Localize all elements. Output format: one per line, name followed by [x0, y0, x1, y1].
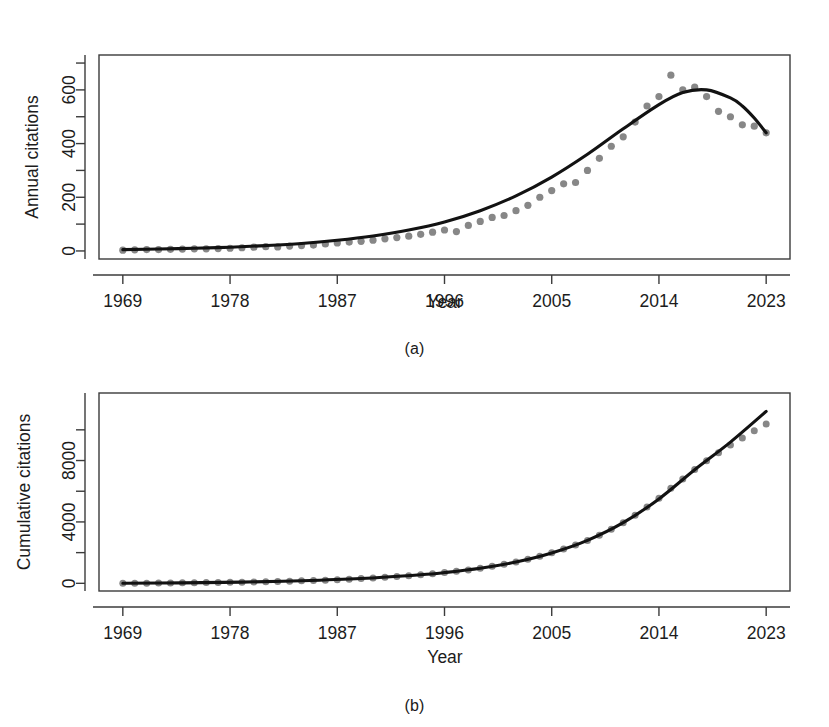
b-x-tick-label: 2005 — [532, 623, 571, 643]
b-plot-frame — [99, 393, 790, 591]
b-x-tick-label: 1978 — [211, 623, 250, 643]
panel-a-x-axis-title: Year — [427, 292, 463, 312]
b-y-tick-label: 8000 — [59, 441, 79, 480]
a-data-point — [667, 72, 674, 79]
a-data-point — [405, 233, 412, 240]
b-x-tick-label: 1969 — [103, 623, 142, 643]
a-y-tick-label: 0 — [59, 246, 79, 256]
a-data-point — [393, 234, 400, 241]
a-data-point — [584, 167, 591, 174]
a-x-tick-label: 2023 — [747, 291, 786, 311]
a-data-point — [500, 212, 507, 219]
b-y-tick-label: 4000 — [59, 502, 79, 541]
citation-figure: 19691978198719962005201420230200400600 A… — [0, 0, 829, 727]
panel-b-y-axis-title: Cumulative citations — [14, 413, 34, 570]
b-x-tick-label: 2014 — [639, 623, 678, 643]
a-x-tick-label: 1969 — [103, 291, 142, 311]
panel-b-x-axis-title: Year — [427, 647, 463, 667]
a-data-point — [560, 180, 567, 187]
b-data-point — [751, 427, 758, 434]
a-data-point — [381, 235, 388, 242]
a-y-tick-label: 200 — [59, 182, 79, 211]
a-data-point — [548, 187, 555, 194]
a-data-point — [643, 102, 650, 109]
a-data-point — [727, 113, 734, 120]
b-fitted-curve — [123, 411, 766, 583]
a-fitted-curve — [123, 90, 766, 250]
a-data-point — [465, 222, 472, 229]
a-data-point — [572, 179, 579, 186]
a-x-tick-label: 1978 — [211, 291, 250, 311]
panel-a-annual-citations: 19691978198719962005201420230200400600 A… — [0, 18, 829, 358]
panel-a-y-axis-title: Annual citations — [22, 95, 42, 219]
a-x-tick-label: 1987 — [318, 291, 357, 311]
a-data-point — [703, 93, 710, 100]
a-y-tick-label: 600 — [59, 75, 79, 104]
panel-b-caption: (b) — [0, 697, 829, 715]
a-data-point — [715, 108, 722, 115]
a-data-point — [489, 214, 496, 221]
a-data-point — [429, 229, 436, 236]
a-data-point — [739, 121, 746, 128]
b-data-point — [763, 420, 770, 427]
panel-b-cumulative-citations: 1969197819871996200520142023040008000 Cu… — [0, 370, 829, 720]
panel-a-plot: 19691978198719962005201420230200400600 A… — [0, 18, 829, 338]
a-data-point — [417, 231, 424, 238]
a-data-point — [512, 207, 519, 214]
panel-a-caption: (a) — [0, 340, 829, 358]
a-data-point — [536, 194, 543, 201]
a-data-point — [751, 123, 758, 130]
a-y-tick-label: 400 — [59, 129, 79, 158]
a-x-tick-label: 2014 — [639, 291, 678, 311]
a-data-point — [524, 202, 531, 209]
a-data-point — [655, 93, 662, 100]
b-x-tick-label: 1996 — [425, 623, 464, 643]
a-x-tick-label: 2005 — [532, 291, 571, 311]
a-data-point — [453, 228, 460, 235]
a-data-point — [608, 143, 615, 150]
b-y-tick-label: 0 — [59, 578, 79, 588]
b-x-tick-label: 2023 — [747, 623, 786, 643]
a-data-point — [441, 226, 448, 233]
a-data-point — [620, 133, 627, 140]
a-data-point — [596, 155, 603, 162]
panel-b-plot: 1969197819871996200520142023040008000 Cu… — [0, 370, 829, 695]
a-data-point — [477, 218, 484, 225]
b-x-tick-label: 1987 — [318, 623, 357, 643]
